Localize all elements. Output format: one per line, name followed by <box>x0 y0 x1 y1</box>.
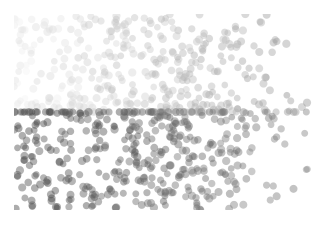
plot-area <box>14 14 312 210</box>
figure-canvas <box>0 0 327 227</box>
scatter-plot <box>14 14 312 210</box>
